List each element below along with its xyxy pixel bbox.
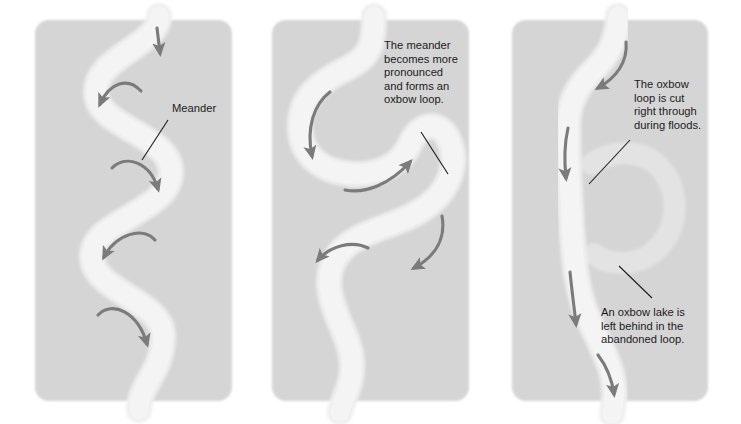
panel-3-lower-annotation-line-1: An oxbow lake is — [601, 306, 685, 318]
panel-2: The meander becomes more pronounced and … — [272, 16, 469, 412]
panel-2-annotation-line-3: pronounced — [384, 66, 443, 78]
panel-2-annotation-line-4: and forms an — [384, 80, 449, 92]
panel-1-annotation-meander: Meander — [172, 102, 216, 114]
panel-3-lower-annotation-line-2: left behind in the — [601, 320, 683, 332]
panel-3-upper-annotation-line-3: right through — [634, 105, 697, 117]
panel-2-annotation-line-1: The meander — [384, 39, 451, 51]
panel-3-annotation-cut-through: The oxbow loop is cut right through duri… — [634, 78, 701, 131]
panel-2-annotation-line-2: becomes more — [384, 53, 458, 65]
panel-3: The oxbow loop is cut right through duri… — [512, 16, 708, 414]
panel-1: Meander — [35, 16, 232, 410]
panel-3-annotation-oxbow-lake: An oxbow lake is left behind in the aban… — [601, 306, 688, 345]
panel-3-upper-annotation-line-1: The oxbow — [634, 78, 690, 90]
panel-3-upper-annotation-line-2: loop is cut — [634, 92, 685, 104]
panel-2-annotation-line-5: oxbow loop. — [384, 93, 444, 105]
river-meander-evolution-diagram: Meander The meander becomes more pronoun… — [0, 0, 741, 424]
panel-1-annotation-line: Meander — [172, 102, 216, 114]
panel-3-lower-annotation-line-3: abandoned loop. — [601, 333, 684, 345]
panel-3-upper-annotation-line-4: during floods. — [634, 119, 701, 131]
